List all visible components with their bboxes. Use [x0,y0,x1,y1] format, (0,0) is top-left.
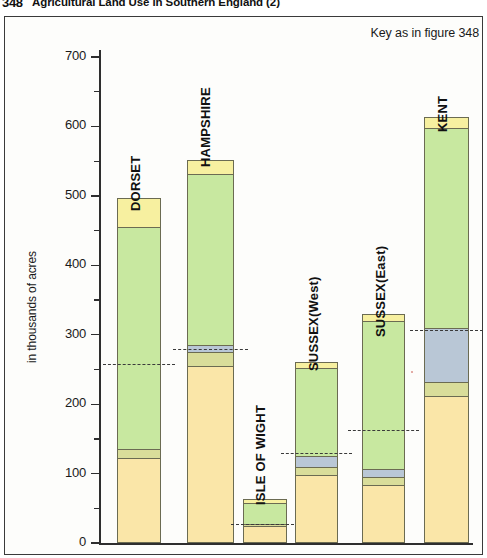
page-title: Agricultural Land Use in Southern Englan… [32,0,280,8]
key-reference-note: Key as in figure 348 [371,26,480,40]
figure-title-strip: 348 Agricultural Land Use in Southern En… [0,0,487,15]
chart-frame [4,16,483,555]
figure-number: 348 [2,0,23,10]
